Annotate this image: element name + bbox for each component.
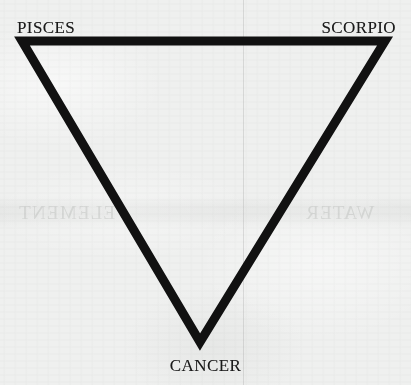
vertex-label-cancer: CANCER [0, 357, 411, 374]
zodiac-triangle-figure: ELEMENT WATER PISCES SCORPIO CANCER [0, 0, 411, 385]
vertex-label-scorpio: SCORPIO [321, 19, 396, 36]
vertex-label-pisces: PISCES [17, 19, 75, 36]
paper-background [0, 0, 411, 385]
